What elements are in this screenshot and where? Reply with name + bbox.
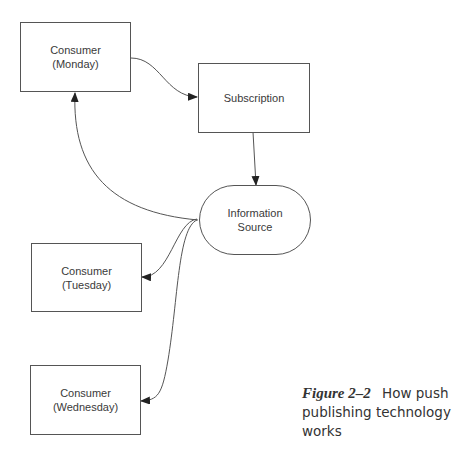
node-consumer-tuesday: Consumer (Tuesday) (31, 243, 142, 312)
node-consumer-wednesday: Consumer (Wednesday) (30, 365, 141, 435)
node-label: Consumer (60, 386, 111, 400)
figure-caption: Figure 2–2 How push publishing technolog… (302, 384, 472, 441)
node-sublabel: (Wednesday) (53, 400, 118, 414)
node-sublabel: Source (238, 220, 273, 234)
node-label: Information (227, 206, 282, 220)
edge-source-to-tuesday (142, 219, 197, 277)
node-subscription: Subscription (198, 63, 310, 133)
edge-subscription-to-source (253, 132, 256, 185)
edge-source-to-wednesday (141, 220, 197, 401)
edge-monday-to-subscription (131, 58, 197, 97)
node-label: Consumer (61, 264, 112, 278)
figure-label: Figure 2–2 (302, 385, 371, 401)
node-sublabel: (Monday) (52, 57, 98, 71)
node-sublabel: (Tuesday) (62, 278, 111, 292)
node-information-source: Information Source (199, 185, 311, 255)
edge-source-to-monday (75, 93, 198, 220)
node-consumer-monday: Consumer (Monday) (20, 22, 131, 92)
node-label: Subscription (224, 91, 285, 105)
node-label: Consumer (50, 43, 101, 57)
